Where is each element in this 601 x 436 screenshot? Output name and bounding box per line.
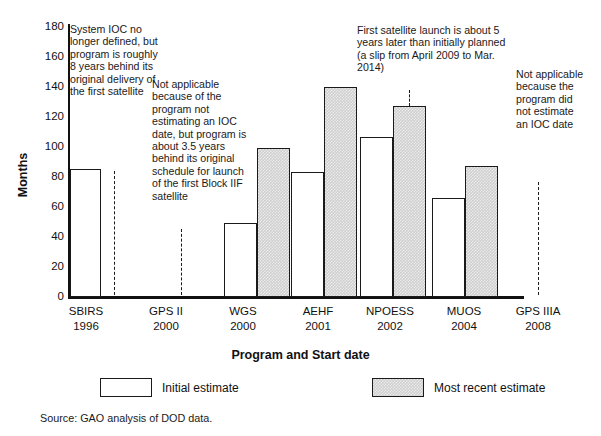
x-tick-wgs-year: 2000 (205, 319, 281, 334)
x-tick-npoess-year: 2002 (352, 319, 428, 334)
annotation-gps3a: Not applicable because the program did n… (516, 68, 588, 130)
x-tick-muos-year: 2004 (426, 319, 502, 334)
marker-gps2-na (181, 229, 182, 295)
x-tick-gps2: GPS II 2000 (128, 304, 204, 334)
x-tick-gps3a: GPS IIIA 2008 (500, 304, 576, 334)
bar-muos-recent[interactable] (465, 166, 498, 297)
annotation-gps2: Not applicable because of the program no… (152, 78, 252, 202)
bar-group-aehf (291, 0, 357, 297)
x-tick-aehf: AEHF 2001 (280, 304, 356, 334)
x-tick-gps3a-year: 2008 (500, 319, 576, 334)
source-note: Source: GAO analysis of DOD data. (40, 412, 212, 424)
bar-wgs-initial[interactable] (224, 223, 257, 297)
bar-npoess-recent[interactable] (393, 106, 426, 297)
bar-aehf-initial[interactable] (291, 172, 324, 297)
legend-label-initial: Initial estimate (162, 381, 239, 395)
x-tick-wgs: WGS 2000 (205, 304, 281, 334)
x-tick-sbirs-year: 1996 (48, 319, 124, 334)
chart-legend: Initial estimate Most recent estimate (0, 378, 601, 400)
callout-leader-npoess (409, 90, 410, 106)
marker-sbirs-recent-na (114, 171, 115, 295)
x-axis-title: Program and Start date (0, 348, 601, 362)
legend-swatch-initial (100, 378, 152, 397)
chart-figure: Months 180 160 140 120 100 80 60 40 20 0 (0, 0, 601, 436)
bar-aehf-recent[interactable] (324, 87, 357, 297)
bar-group-gps3a (510, 0, 550, 297)
legend-item-recent[interactable]: Most recent estimate (372, 378, 545, 397)
bar-wgs-recent[interactable] (257, 148, 290, 297)
x-tick-muos: MUOS 2004 (426, 304, 502, 334)
bar-muos-initial[interactable] (432, 198, 465, 297)
x-tick-sbirs: SBIRS 1996 (48, 304, 124, 334)
legend-label-recent: Most recent estimate (434, 381, 545, 395)
legend-item-initial[interactable]: Initial estimate (100, 378, 239, 397)
x-tick-muos-name: MUOS (426, 304, 502, 319)
x-tick-aehf-name: AEHF (280, 304, 356, 319)
x-tick-gps3a-name: GPS IIIA (500, 304, 576, 319)
x-tick-wgs-name: WGS (205, 304, 281, 319)
x-tick-npoess: NPOESS 2002 (352, 304, 428, 334)
bar-sbirs-initial[interactable] (70, 169, 101, 297)
x-tick-aehf-year: 2001 (280, 319, 356, 334)
annotation-sbirs: System IOC no longer defined, but progra… (70, 23, 162, 97)
legend-swatch-recent (372, 378, 424, 397)
annotation-npoess: First satellite launch is about 5 years … (357, 24, 507, 74)
x-tick-gps2-year: 2000 (128, 319, 204, 334)
bar-npoess-initial[interactable] (360, 137, 393, 297)
x-tick-npoess-name: NPOESS (352, 304, 428, 319)
marker-gps3a-na (538, 182, 539, 295)
x-tick-gps2-name: GPS II (128, 304, 204, 319)
x-tick-sbirs-name: SBIRS (48, 304, 124, 319)
